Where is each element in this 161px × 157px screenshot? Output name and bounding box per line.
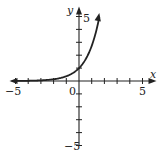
plot-area: y x −5 0 5 5 −5 xyxy=(0,0,161,157)
x-tick-label-zero: 0 xyxy=(69,85,76,98)
curve-arrowhead-icon xyxy=(95,13,101,21)
y-axis-label: y xyxy=(66,4,74,17)
exponential-curve xyxy=(16,17,100,81)
y-tick-label-max: 5 xyxy=(83,12,90,25)
x-tick-label-max: 5 xyxy=(139,85,146,98)
x-axis-label: x xyxy=(150,68,157,81)
axes xyxy=(10,7,157,146)
y-tick-label-min: −5 xyxy=(64,140,80,153)
exponential-graph: y x −5 0 5 5 −5 xyxy=(0,0,161,157)
x-tick-label-min: −5 xyxy=(5,85,21,98)
y-axis-arrow-up-icon xyxy=(76,7,82,15)
